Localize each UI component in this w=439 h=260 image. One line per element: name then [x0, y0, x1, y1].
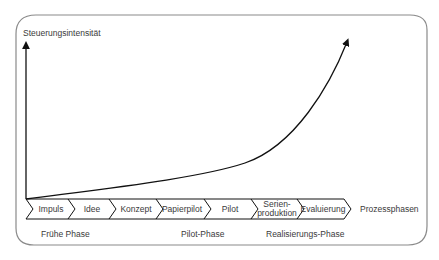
step-impuls: Impuls — [38, 204, 63, 214]
step-evaluierung: Evaluierung — [301, 204, 346, 214]
step-konzept: Konzept — [120, 204, 152, 214]
y-axis-label: Steuerungsintensität — [23, 28, 101, 38]
phase-label-realisierungs-phase: Realisierungs-Phase — [266, 229, 344, 239]
phase-label-pilot-phase: Pilot-Phase — [181, 229, 224, 239]
step-serienproduktion-line2: produktion — [257, 208, 297, 218]
step-papierpilot: Papierpilot — [162, 204, 203, 214]
intensity-curve-arrow-icon — [26, 42, 347, 199]
step-idee: Idee — [84, 204, 101, 214]
step-pilot: Pilot — [222, 204, 239, 214]
diagram-canvas: Impuls Idee Konzept Papierpilot Pilot Se… — [0, 0, 439, 260]
phase-label-fruehe-phase: Frühe Phase — [41, 229, 90, 239]
x-axis-label: Prozessphasen — [360, 204, 419, 214]
